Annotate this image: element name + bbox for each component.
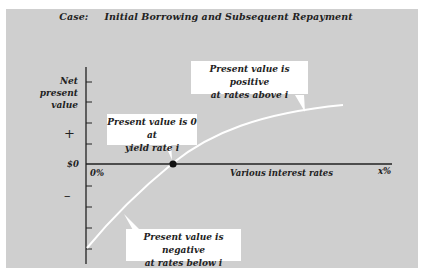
callout-negative-line2: at rates below i [126,257,241,270]
x-end-label: x% [378,166,391,176]
callout-negative-line1: Present value is negative [126,231,241,257]
callout-positive-line1: Present value is positive [191,63,308,89]
y-axis-label: Net present value [30,75,78,111]
y-label-line1: Net present [30,75,78,99]
yield-rate-point [169,160,176,167]
callout-zero-line1: Present value is 0 at [107,116,197,142]
x-start-label: 0% [90,168,104,178]
plus-sign: + [64,126,75,141]
y-label-line2: value [30,99,78,111]
x-axis-label: Various interest rates [230,168,333,178]
callout-zero-line2: yield rate i [107,142,197,155]
minus-sign: – [64,188,71,203]
callout-negative: Present value is negative at rates below… [126,229,241,261]
callout-positive-line2: at rates above i [191,89,308,102]
zero-dollar-label: $0 [67,159,79,169]
callout-positive: Present value is positive at rates above… [191,61,308,94]
y-ticks [86,82,92,249]
callout-zero: Present value is 0 at yield rate i [107,114,197,145]
